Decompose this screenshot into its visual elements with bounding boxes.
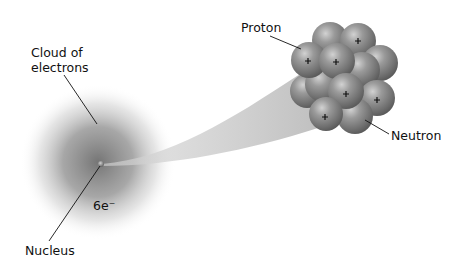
nucleus-label: Nucleus xyxy=(25,243,75,258)
proton-sphere xyxy=(309,97,343,131)
nucleus-dot xyxy=(98,161,104,167)
atom-diagram: Cloud of electrons Proton Neutron 6e⁻ Nu… xyxy=(0,0,461,272)
electron-count-label: 6e⁻ xyxy=(93,198,115,213)
neutron-label: Neutron xyxy=(391,128,441,143)
cloud-label-line1: Cloud of xyxy=(31,45,89,60)
cloud-label-line2: electrons xyxy=(31,60,89,75)
proton-label: Proton xyxy=(241,20,281,35)
proton-leader-line xyxy=(270,36,301,49)
cloud-label: Cloud of electrons xyxy=(31,45,89,75)
